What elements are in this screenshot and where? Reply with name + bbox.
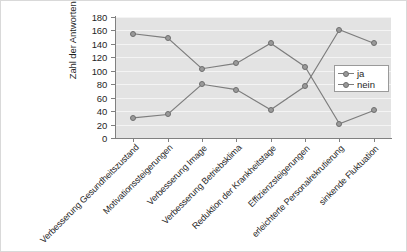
x-axis-category-label: Effizienzsteigerungen <box>246 143 312 209</box>
data-point-marker <box>268 40 274 46</box>
legend-marker-icon <box>338 80 354 89</box>
gridline <box>116 44 391 45</box>
x-axis-tick <box>374 138 375 142</box>
legend-marker-icon <box>338 69 354 78</box>
chart-figure: 020406080100120140160180 Zahl der Antwor… <box>0 0 407 252</box>
x-axis-line <box>115 138 392 139</box>
x-axis-tick <box>271 138 272 142</box>
legend-label-ja: ja <box>357 68 364 79</box>
gridline <box>116 30 391 31</box>
y-axis-tick-label: 100 <box>92 65 107 76</box>
data-point-marker <box>371 40 377 46</box>
x-axis-tick <box>236 138 237 142</box>
y-axis-tick-label: 160 <box>92 25 107 36</box>
data-point-marker <box>233 87 239 93</box>
gridline <box>116 98 391 99</box>
y-axis-tick-label: 140 <box>92 38 107 49</box>
y-axis-tick <box>111 57 115 58</box>
x-axis-category-label: sinkende Fluktuation <box>317 143 380 206</box>
x-axis-tick <box>305 138 306 142</box>
data-point-marker <box>130 31 136 37</box>
y-axis-tick <box>111 138 115 139</box>
gridline <box>116 125 391 126</box>
y-axis-tick <box>111 17 115 18</box>
y-axis-tick-labels: 020406080100120140160180 <box>1 1 109 252</box>
y-axis-tick <box>111 30 115 31</box>
legend-item-ja[interactable]: ja <box>338 68 385 79</box>
y-axis-tick <box>111 71 115 72</box>
y-axis-tick-label: 80 <box>97 79 107 90</box>
y-axis-title-wrap: Zahl der Antworten von 185 <box>37 9 51 135</box>
y-axis-tick <box>111 84 115 85</box>
x-axis-tick <box>168 138 169 142</box>
y-axis-tick-label: 60 <box>97 92 107 103</box>
legend-label-nein: nein <box>357 79 375 90</box>
data-point-marker <box>199 66 205 72</box>
data-point-marker <box>165 35 171 41</box>
y-axis-tick-label: 180 <box>92 12 107 23</box>
y-axis-tick-label: 120 <box>92 52 107 63</box>
data-point-marker <box>130 115 136 121</box>
chart-legend: ja nein <box>334 65 389 92</box>
data-point-marker <box>302 64 308 70</box>
y-axis-tick <box>111 44 115 45</box>
gridline <box>116 111 391 112</box>
y-axis-title: Zahl der Antworten von 185 <box>67 0 78 86</box>
y-axis-tick-label: 20 <box>97 119 107 130</box>
data-point-marker <box>268 107 274 113</box>
legend-item-nein[interactable]: nein <box>338 79 385 90</box>
y-axis-tick <box>111 111 115 112</box>
y-axis-tick-label: 0 <box>102 133 107 144</box>
x-axis-tick <box>339 138 340 142</box>
x-axis-tick <box>202 138 203 142</box>
x-axis-category-label: Verbesserung Image <box>145 143 209 207</box>
gridline <box>116 17 391 18</box>
y-axis-tick <box>111 125 115 126</box>
y-axis-tick-label: 40 <box>97 106 107 117</box>
y-axis-line <box>115 16 116 139</box>
gridline <box>116 57 391 58</box>
y-axis-tick <box>111 98 115 99</box>
